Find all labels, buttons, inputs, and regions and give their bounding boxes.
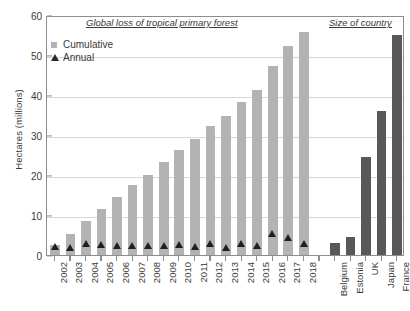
country-bar <box>392 35 402 255</box>
annual-marker <box>222 244 230 251</box>
legend-square-icon <box>51 42 57 48</box>
annual-marker <box>82 240 90 247</box>
annual-marker <box>160 242 168 249</box>
legend-item-annual: Annual <box>51 51 113 64</box>
x-tick-mark <box>163 256 164 261</box>
x-label-year: 2005 <box>104 262 115 283</box>
x-label-year: 2007 <box>136 262 147 283</box>
x-label-year: 2013 <box>229 262 240 283</box>
annual-marker <box>128 242 136 249</box>
x-tick-mark <box>116 256 117 261</box>
x-label-year: 2017 <box>291 262 302 283</box>
annual-marker <box>253 242 261 249</box>
cumulative-bar <box>206 126 216 255</box>
legend-triangle-icon <box>51 54 59 61</box>
cumulative-bar <box>221 116 231 255</box>
x-label-year: 2016 <box>276 262 287 283</box>
annual-marker <box>237 240 245 247</box>
annual-marker <box>144 242 152 249</box>
x-label-year: 2018 <box>307 262 318 283</box>
y-tick-label: 0 <box>0 251 42 262</box>
x-tick-mark <box>334 256 335 261</box>
legend-label-cumulative: Cumulative <box>63 39 113 50</box>
gridline <box>47 97 403 98</box>
annual-marker <box>206 240 214 247</box>
cumulative-bar <box>299 32 309 255</box>
x-tick-mark <box>241 256 242 261</box>
x-tick-mark <box>147 256 148 261</box>
x-tick-mark <box>272 256 273 261</box>
x-label-year: 2009 <box>167 262 178 283</box>
legend-item-cumulative: Cumulative <box>51 38 113 51</box>
country-bar <box>361 157 371 255</box>
annual-marker <box>268 230 276 237</box>
x-label-year: 2011 <box>198 262 209 282</box>
x-tick-mark <box>381 256 382 261</box>
x-label-year: 2010 <box>182 262 193 283</box>
x-label-country: France <box>400 262 410 292</box>
x-tick-mark <box>256 256 257 261</box>
cumulative-bar <box>190 139 200 255</box>
y-tick-label: 30 <box>0 131 42 142</box>
annual-marker <box>191 243 199 250</box>
x-tick-mark <box>69 256 70 261</box>
legend-label-annual: Annual <box>63 52 94 63</box>
cumulative-bar <box>237 102 247 255</box>
annual-marker <box>66 244 74 251</box>
annual-marker <box>51 243 59 250</box>
x-tick-mark <box>194 256 195 261</box>
x-label-year: 2006 <box>120 262 131 283</box>
cumulative-bar <box>252 90 262 255</box>
x-label-year: 2015 <box>260 262 271 283</box>
annual-marker <box>300 240 308 247</box>
x-tick-mark <box>350 256 351 261</box>
x-label-country: Estonia <box>354 262 365 294</box>
x-label-year: 2002 <box>58 262 69 283</box>
x-tick-mark <box>303 256 304 261</box>
x-label-year: 2004 <box>89 262 100 283</box>
x-tick-mark <box>396 256 397 261</box>
chart-legend: Cumulative Annual <box>51 38 113 64</box>
annual-marker <box>284 234 292 241</box>
x-tick-mark <box>225 256 226 261</box>
x-tick-mark <box>209 256 210 261</box>
cumulative-bar <box>268 66 278 255</box>
forest-loss-chart: Hectares (millions) 0102030405060 Global… <box>0 0 410 311</box>
x-label-year: 2003 <box>73 262 84 283</box>
y-tick-label: 50 <box>0 51 42 62</box>
x-label-country: Belgium <box>338 262 349 296</box>
x-tick-mark <box>85 256 86 261</box>
annual-marker <box>97 241 105 248</box>
cumulative-bar <box>81 221 91 255</box>
y-tick-label: 40 <box>0 91 42 102</box>
x-label-year: 2012 <box>213 262 224 283</box>
x-tick-mark <box>100 256 101 261</box>
country-bar <box>346 237 356 255</box>
y-tick-label: 10 <box>0 211 42 222</box>
y-axis-title: Hectares (millions) <box>13 50 24 210</box>
x-tick-mark <box>287 256 288 261</box>
x-tick-mark-gap <box>318 256 319 261</box>
section-header-country: Size of country <box>329 17 392 28</box>
country-bar <box>330 243 340 255</box>
x-tick-mark <box>365 256 366 261</box>
annual-marker <box>175 241 183 248</box>
x-label-country: Japan <box>385 262 396 288</box>
country-bar <box>377 111 387 255</box>
x-label-year: 2008 <box>151 262 162 283</box>
y-tick-label: 20 <box>0 171 42 182</box>
cumulative-bar <box>174 150 184 255</box>
x-label-year: 2014 <box>245 262 256 283</box>
x-tick-mark <box>132 256 133 261</box>
y-tick-label: 60 <box>0 11 42 22</box>
x-label-country: UK <box>369 262 380 275</box>
cumulative-bar <box>283 46 293 255</box>
x-tick-mark <box>54 256 55 261</box>
section-header-forest: Global loss of tropical primary forest <box>86 17 238 28</box>
x-tick-mark <box>178 256 179 261</box>
annual-marker <box>113 242 121 249</box>
